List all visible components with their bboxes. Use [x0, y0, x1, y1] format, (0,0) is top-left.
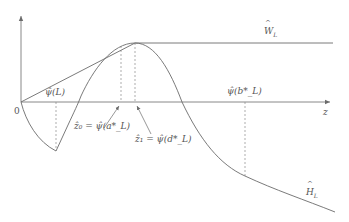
lower-curve-label: Ĥ_L H^L — [306, 188, 318, 199]
diagram-canvas: 0 z Ŵ_L W^L Ĥ_L H^L ψ̂(L) ψ̂(b*_L) ẑ₀ = … — [0, 0, 349, 222]
upper-line-label: Ŵ_L W^L — [264, 27, 277, 38]
x-axis-label: z — [323, 108, 328, 117]
origin-label: 0 — [14, 107, 20, 116]
psi-L-label: ψ̂(L) — [45, 88, 65, 97]
z0-label: ẑ₀ = ψ̂(a*_L) — [74, 122, 130, 131]
z1-pointer-arrow — [137, 106, 151, 134]
diagram-svg — [0, 0, 349, 222]
z1-label: ẑ₁ = ψ̂(d*_L) — [135, 135, 191, 144]
psi-b-label: ψ̂(b*_L) — [227, 87, 262, 96]
upper-line-w — [21, 43, 333, 102]
lower-curve-h — [21, 43, 335, 212]
